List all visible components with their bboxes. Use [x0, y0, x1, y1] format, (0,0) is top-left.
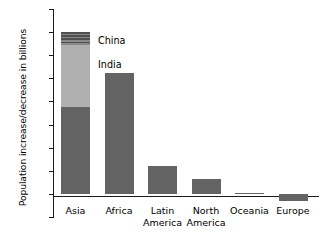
series-annotation-china: China	[98, 35, 125, 46]
y-tick-mark	[49, 78, 54, 79]
y-tick-mark	[49, 101, 54, 102]
y-tick-mark	[49, 125, 54, 126]
bar	[61, 9, 90, 217]
plot-area: 1.61.41.21.00.80.60.40.20−0.2 ChinaIndia…	[53, 9, 319, 217]
y-tick-mark	[49, 194, 54, 195]
category-label: Europe	[265, 205, 322, 217]
y-tick-mark	[49, 217, 54, 218]
y-tick-mark	[49, 55, 54, 56]
bar-segment	[148, 166, 177, 194]
y-axis-title: Population increase/decrease in billions	[17, 8, 28, 228]
bar-segment	[105, 73, 134, 194]
bar-segment	[61, 32, 90, 45]
category-label-line: America	[178, 217, 235, 229]
series-annotation-india: India	[98, 59, 122, 70]
population-change-bar-chart: Population increase/decrease in billions…	[0, 0, 323, 252]
category-label-line: Europe	[265, 205, 322, 217]
y-tick-mark	[49, 32, 54, 33]
y-tick-mark	[49, 171, 54, 172]
bar-segment	[192, 179, 221, 194]
bar-segment	[235, 193, 264, 194]
bar	[235, 9, 264, 217]
bar-segment	[61, 45, 90, 107]
y-axis-line	[53, 9, 54, 217]
y-tick-mark	[49, 9, 54, 10]
bar	[148, 9, 177, 217]
y-tick-mark	[49, 148, 54, 149]
bar-segment	[279, 194, 308, 201]
bar	[279, 9, 308, 217]
bar	[192, 9, 221, 217]
bar-segment	[61, 107, 90, 194]
